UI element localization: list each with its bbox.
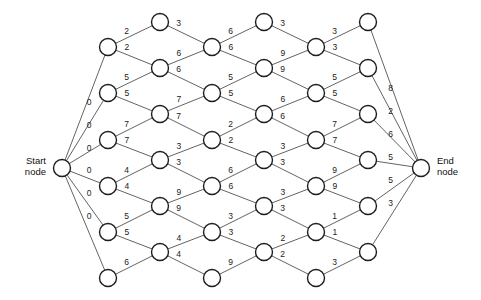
edge-c2n1-c3n1 (168, 26, 205, 44)
edge-c4n2-c5n1 (272, 50, 308, 65)
edge-c1n4-c2n4 (116, 164, 153, 182)
edge-S-c1n6 (65, 176, 104, 270)
edge-c3n4-c4n4 (220, 164, 257, 182)
node-c2n6[interactable] (152, 244, 169, 261)
edge-weight-label: 6 (228, 181, 233, 191)
edge-weight-label: 7 (332, 135, 337, 145)
node-c3n4[interactable] (204, 178, 221, 195)
node-c2n1[interactable] (152, 14, 169, 31)
node-c1n1[interactable] (100, 39, 117, 56)
edge-weight-label: 3 (332, 42, 337, 52)
edge-c6n3-E (374, 120, 415, 162)
edge-c4n5-c5n4 (272, 189, 308, 203)
node-c1n3[interactable] (100, 132, 117, 149)
edge-weight-label: 9 (176, 187, 181, 197)
node-c4n4[interactable] (256, 152, 273, 169)
edge-weight-label: 6 (388, 129, 393, 139)
network-canvas: 0000002255774455636677339944665522663393… (0, 0, 481, 300)
node-c6n5[interactable] (360, 198, 377, 215)
edge-c2n2-c3n2 (168, 72, 205, 90)
edge-c5n5-c6n5 (324, 210, 361, 228)
edge-weight-label: 5 (228, 72, 233, 82)
edge-weight-label: 2 (280, 249, 285, 259)
node-c3n5[interactable] (204, 224, 221, 241)
node-c3n1[interactable] (204, 39, 221, 56)
node-c3n3[interactable] (204, 132, 221, 149)
node-c5n3[interactable] (308, 132, 325, 149)
edge-weight-label: 4 (124, 181, 129, 191)
node-c2n3[interactable] (152, 106, 169, 123)
edge-weight-label: 7 (332, 119, 337, 129)
edge-weight-label: 7 (176, 111, 181, 121)
edge-weight-label: 3 (280, 141, 285, 151)
edge-weight-label: 6 (176, 48, 181, 58)
edge-weight-label: 3 (280, 187, 285, 197)
node-c1n6[interactable] (100, 270, 117, 287)
edge-weight-label: 5 (124, 227, 129, 237)
node-c3n6[interactable] (204, 270, 221, 287)
edge-weight-label: 9 (332, 165, 337, 175)
edge-weight-label: 0 (87, 211, 92, 221)
node-c5n1[interactable] (308, 39, 325, 56)
edge-weight-label: 3 (332, 26, 337, 36)
edge-weight-label: 6 (228, 165, 233, 175)
edge-weight-label: 1 (332, 211, 337, 221)
edge-c1n6-c2n6 (116, 256, 153, 274)
edge-weight-label: 3 (176, 141, 181, 151)
edge-weight-label: 7 (124, 135, 129, 145)
edge-c3n6-c4n6 (220, 256, 257, 274)
node-c2n4[interactable] (152, 152, 169, 169)
node-c5n2[interactable] (308, 85, 325, 102)
node-c4n3[interactable] (256, 106, 273, 123)
end-node[interactable] (413, 160, 430, 177)
edge-weight-label: 3 (280, 203, 285, 213)
edge-S-c1n3 (69, 144, 100, 163)
node-c4n2[interactable] (256, 60, 273, 77)
edge-weight-label: 2 (228, 135, 233, 145)
node-c2n5[interactable] (152, 198, 169, 215)
edge-c2n5-c3n4 (168, 189, 204, 203)
edge-c3n1-c4n1 (220, 26, 257, 44)
edge-weight-label: 4 (124, 165, 129, 175)
node-c6n1[interactable] (360, 14, 377, 31)
edge-weight-label: 3 (176, 18, 181, 28)
node-c4n1[interactable] (256, 14, 273, 31)
edge-weight-label: 7 (124, 119, 129, 129)
node-c4n5[interactable] (256, 198, 273, 215)
edge-c2n4-c3n3 (168, 143, 204, 157)
edge-S-c1n4 (70, 171, 100, 183)
edge-c4n6-c5n5 (272, 235, 308, 249)
node-c6n3[interactable] (360, 106, 377, 123)
edge-c3n5-c4n6 (220, 235, 256, 249)
start-node[interactable] (54, 160, 71, 177)
node-c1n5[interactable] (100, 224, 117, 241)
node-c5n4[interactable] (308, 178, 325, 195)
node-c5n6[interactable] (308, 270, 325, 287)
node-c6n2[interactable] (360, 60, 377, 77)
edge-c4n2-c5n2 (272, 72, 309, 90)
node-c6n4[interactable] (360, 152, 377, 169)
edge-weight-label: 6 (176, 64, 181, 74)
edge-weight-label: 5 (124, 72, 129, 82)
edge-c5n3-c6n4 (324, 143, 360, 157)
end-node-label-line1: End (437, 155, 454, 166)
edge-weight-label: 0 (87, 188, 92, 198)
edge-c5n2-c6n2 (324, 72, 361, 90)
edge-c4n3-c5n3 (272, 118, 309, 136)
node-c6n6[interactable] (360, 244, 377, 261)
edge-weight-label: 6 (124, 257, 129, 267)
edge-c2n3-c3n3 (168, 118, 205, 136)
edge-c2n4-c3n4 (168, 164, 205, 182)
node-c5n5[interactable] (308, 224, 325, 241)
node-c1n2[interactable] (100, 85, 117, 102)
node-c4n6[interactable] (256, 244, 273, 261)
edge-c3n3-c4n3 (220, 118, 257, 136)
node-c2n2[interactable] (152, 60, 169, 77)
edge-weight-label: 1 (332, 227, 337, 237)
node-c3n2[interactable] (204, 85, 221, 102)
edge-weight-label: 5 (332, 88, 337, 98)
edge-c1n1-c2n1 (116, 26, 153, 44)
node-c1n4[interactable] (100, 178, 117, 195)
edge-c5n1-c6n2 (324, 50, 360, 65)
edge-S-c1n5 (67, 175, 103, 225)
